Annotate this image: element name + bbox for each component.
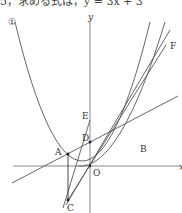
line-of (68, 45, 166, 200)
label-b: B (140, 144, 147, 154)
label-e: E (82, 111, 89, 121)
point-c (67, 199, 70, 202)
point-a (67, 153, 70, 156)
label-o: O (93, 168, 100, 178)
curve-1-label: ① (8, 17, 16, 27)
curve-obf (78, 22, 165, 166)
label-d: D (82, 133, 89, 143)
geometry-figure: ① y x A B C D E F O (0, 0, 182, 213)
label-f: F (170, 41, 176, 51)
x-axis-label: x (179, 162, 182, 172)
y-axis-label: y (87, 12, 94, 22)
label-a: A (54, 147, 62, 157)
label-c: C (67, 203, 74, 213)
point-o (89, 165, 92, 168)
